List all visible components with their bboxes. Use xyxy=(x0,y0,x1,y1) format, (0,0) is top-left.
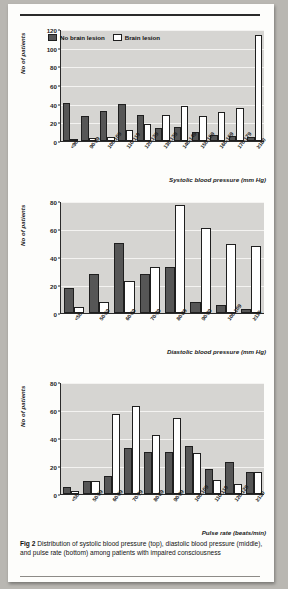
bar-no-brain-lesion xyxy=(165,267,175,313)
figure-caption: Fig 2 Distribution of systolic blood pre… xyxy=(20,540,264,557)
y-axis-title: No of patients xyxy=(20,205,26,246)
x-tick: 160-169 xyxy=(208,144,227,172)
bar-no-brain-lesion xyxy=(216,305,226,313)
bar-brain-lesion xyxy=(132,406,140,494)
x-tick: 100-109 xyxy=(182,497,202,525)
x-axis-labels: <5050-5960-6970-7980-8990-99100-109≥110 xyxy=(60,316,264,344)
bar-group xyxy=(227,30,245,141)
bar-no-brain-lesion xyxy=(104,476,112,494)
top-rule xyxy=(20,14,260,16)
x-tick: 80-89 xyxy=(162,316,188,344)
bar-group xyxy=(79,30,97,141)
bar-group xyxy=(61,383,81,494)
x-tick: 50-59 xyxy=(80,497,100,525)
y-tick-label: 40 xyxy=(50,436,57,443)
bar-brain-lesion xyxy=(175,205,185,313)
y-axis: 020406080100120 xyxy=(38,30,60,142)
x-tick: 70-79 xyxy=(121,497,141,525)
x-tick: 110-119 xyxy=(203,497,223,525)
legend-label: No brain lesion xyxy=(60,34,105,41)
x-tick: 130-139 xyxy=(153,144,172,172)
caption-label: Fig 2 xyxy=(20,540,35,547)
bar-group xyxy=(135,30,153,141)
x-tick: 120-129 xyxy=(223,497,243,525)
x-tick: 50-59 xyxy=(86,316,112,344)
x-tick: 70-79 xyxy=(137,316,163,344)
legend-item: No brain lesion xyxy=(48,34,105,41)
x-tick: 90-99 xyxy=(162,497,182,525)
bar-group xyxy=(112,202,137,313)
bar-groups xyxy=(61,202,264,313)
bar-no-brain-lesion xyxy=(124,448,132,494)
bar-group xyxy=(190,30,208,141)
y-axis: 020406080 xyxy=(38,383,60,495)
plot-background xyxy=(60,202,264,314)
bar-group xyxy=(137,202,162,313)
y-tick-label: 100 xyxy=(47,45,57,52)
x-tick: 170-179 xyxy=(227,144,246,172)
x-axis-title: Diastolic blood pressure (mm Hg) xyxy=(167,348,266,355)
y-tick-label: 20 xyxy=(50,120,57,127)
bar-group xyxy=(122,383,142,494)
bar-group xyxy=(246,30,264,141)
legend-label: Brain lesion xyxy=(125,34,160,41)
bar-no-brain-lesion xyxy=(185,446,193,494)
bar-group xyxy=(172,30,190,141)
x-tick: 150-159 xyxy=(190,144,209,172)
bar-no-brain-lesion xyxy=(81,116,88,141)
bar-group xyxy=(239,202,264,313)
y-axis-title: No of patients xyxy=(20,386,26,427)
bar-no-brain-lesion xyxy=(114,243,124,313)
bar-group xyxy=(142,383,162,494)
y-tick-label: 20 xyxy=(50,464,57,471)
x-axis-labels: <5050-5960-6970-7980-8990-99100-109110-1… xyxy=(60,497,264,525)
x-tick: ≥180 xyxy=(245,144,264,172)
bar-no-brain-lesion xyxy=(100,111,107,141)
plot-area: 020406080100120 xyxy=(38,30,264,142)
bar-group xyxy=(203,383,223,494)
bar-group xyxy=(162,383,182,494)
bar-no-brain-lesion xyxy=(241,309,251,313)
bar-brain-lesion xyxy=(251,246,261,313)
bar-no-brain-lesion xyxy=(89,274,99,313)
caption-text: Distribution of systolic blood pressure … xyxy=(20,540,262,556)
x-axis-title: Systolic blood pressure (mm Hg) xyxy=(169,176,266,183)
y-tick-label: 120 xyxy=(47,27,57,34)
plot-background xyxy=(60,30,264,142)
bar-brain-lesion xyxy=(112,414,120,494)
y-tick-label: 80 xyxy=(50,64,57,71)
y-tick-label: 80 xyxy=(50,199,57,206)
y-tick-label: 0 xyxy=(54,311,57,318)
bar-group xyxy=(98,30,116,141)
y-tick-label: 60 xyxy=(50,227,57,234)
x-tick: <50 xyxy=(60,497,80,525)
legend-swatch xyxy=(113,34,122,41)
x-tick: 60-69 xyxy=(111,316,137,344)
x-tick: 140-149 xyxy=(171,144,190,172)
x-tick: 110-119 xyxy=(116,144,135,172)
x-tick: 90-99 xyxy=(188,316,214,344)
bar-group xyxy=(244,383,264,494)
chart-pulse: 020406080<5050-5960-6970-7980-8990-99100… xyxy=(12,377,270,537)
x-tick: 120-129 xyxy=(134,144,153,172)
bar-group xyxy=(116,30,134,141)
bar-no-brain-lesion xyxy=(63,487,71,494)
bar-groups xyxy=(61,383,264,494)
bar-no-brain-lesion xyxy=(63,103,70,141)
bar-group xyxy=(183,383,203,494)
y-tick-label: 20 xyxy=(50,283,57,290)
bar-brain-lesion xyxy=(201,228,211,313)
bar-group xyxy=(223,383,243,494)
bar-group xyxy=(153,30,171,141)
legend-swatch xyxy=(48,34,57,41)
bar-brain-lesion xyxy=(152,435,160,494)
y-axis-title: No of patients xyxy=(20,33,26,74)
y-tick-label: 60 xyxy=(50,83,57,90)
bar-brain-lesion xyxy=(173,418,181,494)
x-tick: ≥130 xyxy=(244,497,264,525)
y-axis: 020406080 xyxy=(38,202,60,314)
x-tick: <50 xyxy=(60,316,86,344)
y-tick-label: 0 xyxy=(54,139,57,146)
bar-no-brain-lesion xyxy=(83,481,91,494)
bar-group xyxy=(163,202,188,313)
